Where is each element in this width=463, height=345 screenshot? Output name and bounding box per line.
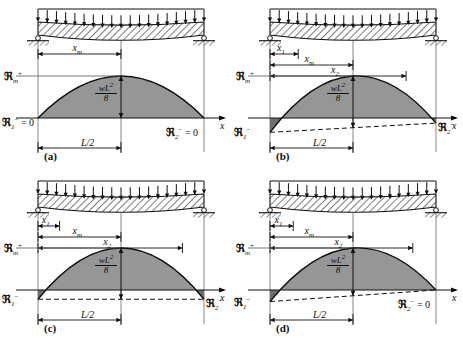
x-axis-label: x [220,120,224,131]
panel-b: x1xmx2wL28L/2ℜm+ℜ1−ℜ2−x(b) [232,0,463,172]
left-end-moment-label: ℜ1− [2,293,18,308]
beam-moment-figure: xmwL28L/2ℜm+ℜ1− = 0ℜ2− = 0x(a)x1xmx2wL28… [0,0,463,345]
peak-moment-value: wL28 [327,254,349,275]
panel-d: x1xmx2wL28L/2ℜm+ℜ1−ℜ2− = 0x(d) [232,172,463,344]
panel-caption: (a) [44,150,57,162]
x-axis-label: x [220,292,224,303]
dimension-label-x_m: xm [73,42,83,56]
dimension-label-x_m: xm [305,53,315,67]
half-span-label: L/2 [313,309,326,320]
left-end-moment-label: ℜ1− = 0 [2,116,34,131]
panel-c: x1xmx2wL28L/2ℜm+ℜ1−ℜ2−x(c) [0,172,231,344]
left-end-moment-label: ℜ1− [234,126,250,141]
max-moment-label: ℜm+ [4,70,22,85]
peak-moment-value: wL28 [95,254,117,275]
max-moment-label: ℜm+ [236,242,254,257]
max-moment-label: ℜm+ [236,70,254,85]
dimension-label-x_1: x1 [275,214,283,228]
panel-a: xmwL28L/2ℜm+ℜ1− = 0ℜ2− = 0x(a) [0,0,231,172]
half-span-label: L/2 [81,137,94,148]
dimension-label-x_1: x1 [42,214,50,228]
x-axis-label: x [452,292,456,303]
panel-caption: (d) [276,322,289,334]
x-axis-label: x [452,120,456,131]
dimension-label-x_1: x1 [277,42,285,56]
half-span-label: L/2 [81,309,94,320]
dimension-label-x_m: xm [73,225,83,239]
peak-moment-value: wL28 [327,82,349,103]
max-moment-label: ℜm+ [4,242,22,257]
peak-moment-value: wL28 [95,82,117,103]
dimension-label-x_2: x2 [103,236,111,250]
half-span-label: L/2 [313,137,326,148]
panel-caption: (b) [276,150,289,162]
dimension-label-x_m: xm [305,225,315,239]
right-end-moment-label: ℜ2− = 0 [398,298,430,313]
right-end-moment-label: ℜ2− = 0 [166,126,198,141]
left-end-moment-label: ℜ1− [234,296,250,311]
dimension-label-x_2: x2 [331,64,339,78]
dimension-label-x_2: x2 [334,236,342,250]
panel-caption: (c) [44,322,56,334]
